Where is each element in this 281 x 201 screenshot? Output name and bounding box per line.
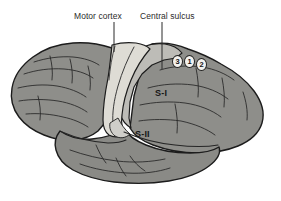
frontal-lobe-shape [11,43,112,141]
brain-diagram-figure: Motor cortex Central sulcus S-I S-II 3 1… [0,0,281,201]
region-label-s1: S-I [155,88,167,98]
callout-label-central-sulcus: Central sulcus [140,11,195,21]
brain-illustration [0,0,281,201]
region-label-s2: S-II [135,129,150,139]
area-badge-2: 2 [196,58,207,71]
area-badge-3: 3 [172,55,183,68]
callout-label-motor-cortex: Motor cortex [74,11,122,21]
area-badge-1: 1 [184,55,195,68]
